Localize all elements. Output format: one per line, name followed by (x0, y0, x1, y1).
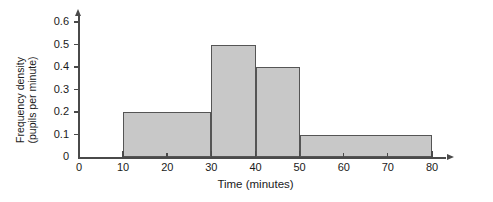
x-axis-tick (166, 153, 167, 157)
y-axis-label: Frequency density (pupils per minute) (8, 30, 44, 170)
x-axis-tick-label: 70 (373, 162, 403, 173)
y-axis-tick (74, 66, 79, 68)
y-axis-tick (74, 111, 79, 113)
x-axis-tick-label: 0 (64, 162, 94, 173)
histogram-bar[interactable] (300, 135, 432, 158)
x-axis-tick-label: 10 (108, 162, 138, 173)
y-axis-tick (74, 21, 79, 23)
x-axis-line (78, 157, 446, 159)
y-axis-tick-label: 0 (35, 151, 69, 162)
x-axis-tick (299, 151, 301, 157)
histogram-bar[interactable] (256, 67, 300, 157)
histogram-bar[interactable] (123, 112, 211, 157)
x-axis-tick (431, 151, 433, 157)
x-axis-label: Time (minutes) (156, 178, 356, 190)
y-axis-line (78, 16, 80, 158)
y-axis-tick-label: 0.1 (35, 129, 69, 140)
x-axis-tick-label: 40 (241, 162, 271, 173)
y-axis-label-line-1: Frequency density (14, 57, 26, 144)
histogram-bar[interactable] (211, 45, 255, 158)
histogram-chart: Frequency density (pupils per minute) 00… (0, 0, 493, 202)
x-axis-tick-label: 60 (329, 162, 359, 173)
y-axis-tick (74, 44, 79, 46)
y-axis-tick-label: 0.5 (35, 39, 69, 50)
y-axis-arrow-icon (75, 9, 81, 16)
y-axis-tick (74, 89, 79, 91)
x-axis-tick (343, 153, 344, 157)
y-axis-tick-label: 0.4 (35, 61, 69, 72)
x-axis-arrow-icon (447, 154, 454, 160)
y-axis-tick-label: 0.6 (35, 16, 69, 27)
y-axis-tick-label: 0.2 (35, 106, 69, 117)
x-axis-tick (387, 153, 388, 157)
y-axis-tick (74, 134, 79, 136)
x-axis-tick-label: 30 (196, 162, 226, 173)
x-axis-tick (255, 151, 257, 157)
x-axis-tick-label: 50 (285, 162, 315, 173)
x-axis-tick (211, 151, 213, 157)
x-axis-tick (122, 151, 124, 157)
y-axis-tick-label: 0.3 (35, 84, 69, 95)
x-axis-tick-label: 80 (417, 162, 447, 173)
x-axis-tick-label: 20 (152, 162, 182, 173)
